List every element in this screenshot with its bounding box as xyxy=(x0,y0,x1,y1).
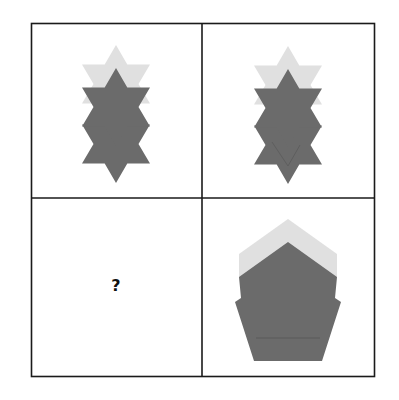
panel-top-right xyxy=(254,46,322,184)
analogy-puzzle-grid: ? xyxy=(0,0,399,400)
panel-bottom-left: ? xyxy=(111,276,120,295)
panel-top-left xyxy=(82,45,150,183)
question-mark-label: ? xyxy=(111,276,120,295)
